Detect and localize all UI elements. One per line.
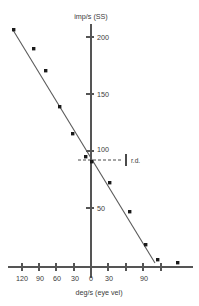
data-point: [32, 47, 35, 50]
data-point: [128, 210, 131, 213]
data-point: [90, 160, 93, 163]
y-axis-ticks: [86, 37, 94, 208]
y-tick-label: 100: [97, 145, 109, 154]
x-tick-label: 30: [71, 274, 79, 283]
chart-figure: 200 150 100 50 120 90 60 30 0 30 90 imp/…: [0, 0, 199, 306]
data-point: [144, 243, 147, 246]
x-tick-label: 120: [16, 274, 28, 283]
data-point: [108, 181, 111, 184]
y-tick-label: 150: [97, 90, 109, 99]
data-point: [156, 258, 159, 261]
x-tick-label: 90: [36, 274, 44, 283]
data-point: [176, 261, 179, 264]
x-tick-label: 0: [89, 274, 93, 283]
x-axis-title: deg/s (eye vel): [75, 288, 122, 297]
y-tick-label: 200: [97, 33, 109, 42]
y-axis-title: imp/s (SS): [74, 12, 108, 21]
data-point: [71, 132, 74, 135]
data-point: [84, 155, 87, 158]
regression-line: [13, 30, 155, 263]
x-tick-label: 30: [105, 274, 113, 283]
data-point-markers: [12, 28, 179, 264]
data-point: [58, 105, 61, 108]
resting-discharge-label: r.d.: [131, 157, 140, 164]
y-tick-label: 50: [97, 204, 105, 213]
x-tick-label: 90: [140, 274, 148, 283]
x-tick-label: 60: [53, 274, 61, 283]
scatter-plot-canvas: 200 150 100 50 120 90 60 30 0 30 90 imp/…: [0, 0, 199, 306]
data-point: [12, 28, 15, 31]
data-point: [44, 69, 47, 72]
